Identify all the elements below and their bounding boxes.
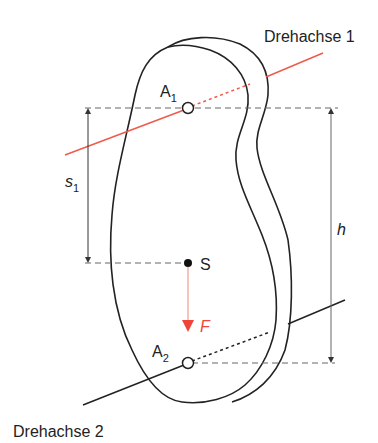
axis1-label: Drehachse 1 [264,28,355,45]
axis2-line-back [288,300,345,324]
pivot-A2 [183,358,194,369]
label-A2: A2 [152,343,169,364]
label-s1: s1 [65,173,79,194]
body-front-outline [111,45,277,402]
body-back-outline [168,38,291,402]
force-arrowhead-icon [182,320,194,332]
label-F: F [200,318,211,335]
axis1-line-front [65,110,184,155]
axis2-line-front [83,365,184,405]
label-S: S [200,256,211,273]
physical-pendulum-diagram: Drehachse 1 Drehachse 2 A1 A2 S F s1 h [0,0,378,443]
axis1-line-hidden [192,84,250,106]
pivot-A1 [183,103,194,114]
axis1-line-back [266,53,323,77]
label-A1: A1 [160,83,177,104]
label-h: h [337,221,346,238]
center-of-mass-S [184,259,192,267]
axis2-line-hidden [192,332,270,361]
axis2-label: Drehachse 2 [13,423,104,440]
